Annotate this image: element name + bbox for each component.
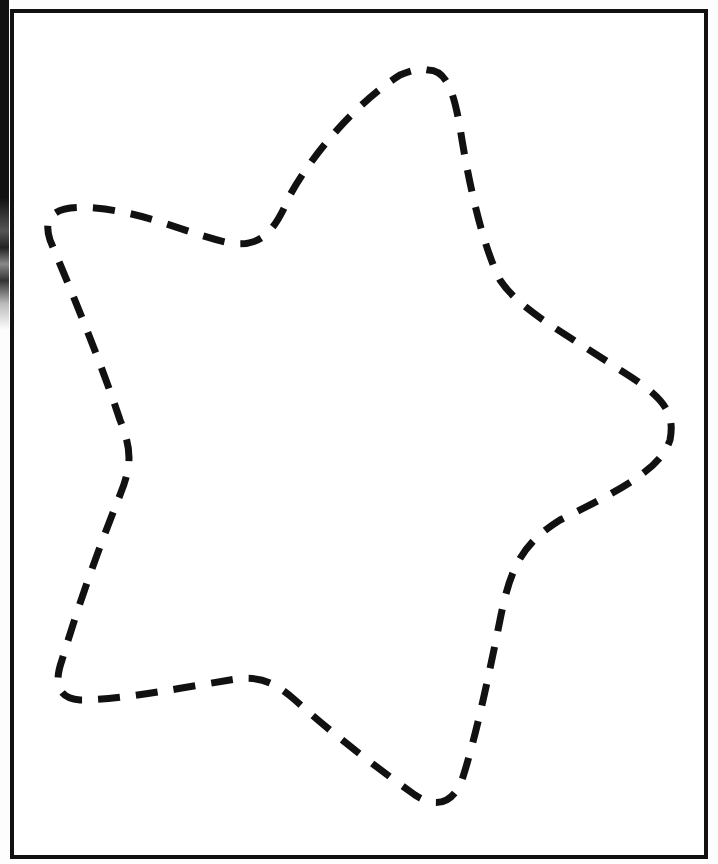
star-path (48, 69, 671, 802)
dashed-star-outline (0, 0, 718, 864)
worksheet-page (0, 0, 718, 864)
